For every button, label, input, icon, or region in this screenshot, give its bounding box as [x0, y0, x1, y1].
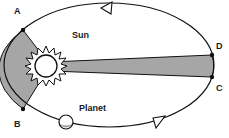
- sun-icon: [25, 46, 67, 86]
- label-a: A: [14, 6, 21, 16]
- point-d-marker: [210, 53, 214, 57]
- point-c-marker: [210, 75, 214, 79]
- direction-arrow-bottom-icon: [153, 116, 165, 128]
- label-planet: Planet: [79, 103, 106, 113]
- shaded-sector-dc: [50, 55, 214, 77]
- point-a-marker: [21, 28, 25, 32]
- label-b: B: [14, 119, 21, 129]
- direction-arrow-top-icon: [101, 2, 112, 14]
- label-c: C: [216, 83, 223, 93]
- point-b-marker: [21, 107, 25, 111]
- orbit-diagram: A Sun D C B Planet: [0, 0, 229, 138]
- label-sun: Sun: [72, 30, 89, 40]
- label-d: D: [216, 41, 223, 51]
- planet-icon: [59, 115, 73, 129]
